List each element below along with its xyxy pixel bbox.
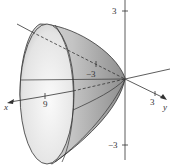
y-axis-front	[125, 79, 164, 98]
paraboloid-rim	[20, 24, 74, 164]
paraboloid-diagram: 3 −3 x 9 y 3 −3	[0, 0, 177, 168]
x-tick-label: 9	[43, 99, 48, 109]
z-tick-pos-label: 3	[112, 6, 117, 16]
y-tick-pos-label: 3	[150, 97, 155, 107]
x-axis-back	[125, 69, 170, 79]
x-axis-arrow-icon	[7, 99, 14, 104]
x-axis-label: x	[3, 102, 8, 112]
y-axis-label: y	[162, 102, 167, 112]
y-axis-arrow-icon	[160, 94, 167, 100]
z-tick-neg-label: −3	[108, 140, 118, 150]
y-axis-back	[17, 24, 32, 32]
y-tick-neg-label: −3	[86, 69, 96, 79]
